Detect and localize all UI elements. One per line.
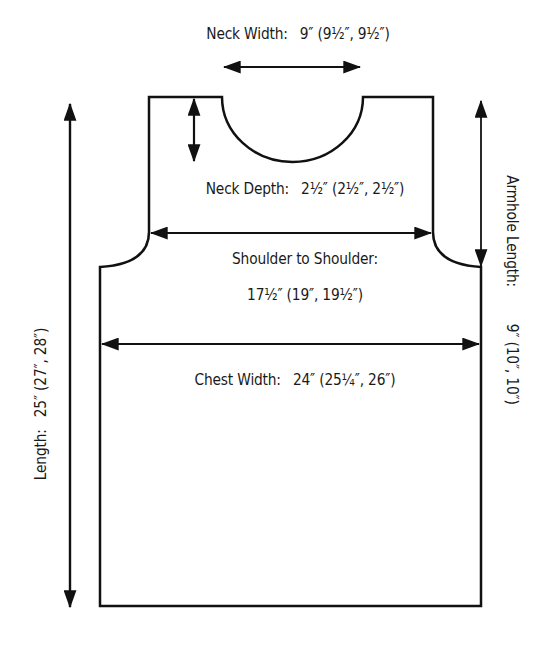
chest-width-value: 24″ (25¼″, 26″) [293, 370, 396, 389]
neck-width-label-text: Neck Width: [206, 24, 287, 43]
neck-depth-label-text: Neck Depth: [206, 179, 289, 198]
armhole-length-label: Armhole Length:9″ (10″, 10″) [501, 166, 521, 414]
neck-width-label: Neck Width:9″ (9½″, 9½″) [186, 24, 410, 43]
chest-width-label-text: Chest Width: [195, 370, 281, 389]
garment-schematic [0, 0, 557, 647]
length-value: 25″ (27″, 28″) [31, 328, 50, 417]
chest-width-label: Chest Width:24″ (25¼″, 26″) [179, 370, 411, 389]
armhole-length-label-text: Armhole Length: [503, 175, 521, 287]
length-label: Length:25″ (27″, 28″) [31, 301, 51, 507]
shoulder-to-shoulder-value: 17½″ (19″, 19½″) [180, 285, 429, 304]
neck-depth-value: 2½″ (2½″, 2½″) [301, 179, 404, 198]
neck-width-value: 9″ (9½″, 9½″) [300, 24, 390, 43]
shoulder-to-shoulder-label-text: Shoulder to Shoulder: [180, 249, 429, 268]
garment-outline [100, 97, 481, 606]
neck-depth-label: Neck Depth:2½″ (2½″, 2½″) [180, 179, 429, 198]
armhole-length-value: 9″ (10″, 10″) [503, 324, 521, 405]
length-label-text: Length: [31, 429, 50, 480]
